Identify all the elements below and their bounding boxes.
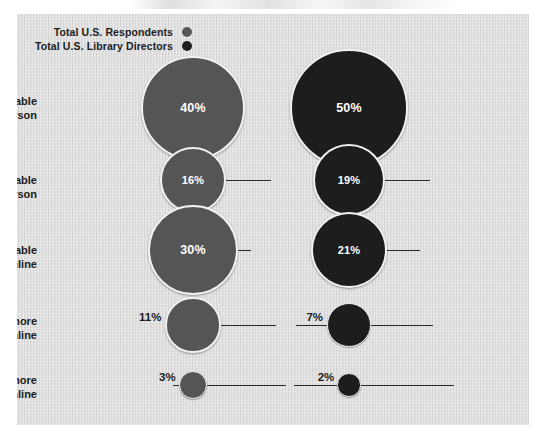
chart-screenshot: Total U.S. Respondents Total U.S. Librar…	[0, 0, 548, 438]
row-label-much-more-in-person: Much more comfortable in person	[17, 94, 37, 122]
bubble-respondents-much-more-in-person[interactable]: 40%	[141, 56, 246, 161]
bubble-plot-area: Total U.S. Respondents Total U.S. Librar…	[17, 14, 529, 425]
bubble-value-respondents-somewhat-more-online: 11%	[139, 311, 161, 323]
bubble-value: 21%	[338, 244, 361, 256]
legend-item-respondents: Total U.S. Respondents	[17, 26, 192, 38]
bubble-value-respondents-much-more-online: 3%	[159, 371, 176, 383]
legend-item-directors: Total U.S. Library Directors	[17, 40, 192, 52]
bubble-value: 16%	[182, 174, 205, 186]
legend-label-directors: Total U.S. Library Directors	[35, 40, 173, 52]
legend-swatch-directors-icon	[182, 41, 192, 51]
bubble-respondents-somewhat-more-online[interactable]	[165, 297, 220, 352]
bubble-directors-somewhat-more-in-person[interactable]: 19%	[313, 144, 385, 216]
bubble-respondents-just-as-comfortable[interactable]: 30%	[148, 205, 239, 296]
bubble-value: 30%	[180, 243, 206, 257]
row-label-somewhat-more-in-person: Somewhat more comfortable in person	[17, 173, 37, 201]
chart-panel: Total U.S. Respondents Total U.S. Librar…	[17, 14, 529, 425]
bubble-directors-somewhat-more-online[interactable]	[327, 303, 371, 347]
legend-label-respondents: Total U.S. Respondents	[54, 26, 173, 38]
bubble-directors-just-as-comfortable[interactable]: 21%	[311, 212, 387, 288]
row-label-just-as-comfortable: Just as comfortable in person as online	[17, 243, 37, 271]
connector-row-5-middle	[294, 385, 454, 386]
bubble-value-directors-much-more-online: 2%	[318, 371, 335, 383]
top-edge-artifact	[130, 0, 460, 9]
bubble-respondents-somewhat-more-in-person[interactable]: 16%	[160, 147, 226, 213]
row-label-somewhat-more-online: Somewhat more comfortable online	[17, 314, 37, 342]
row-label-much-more-online: Much more comfortable online	[17, 373, 37, 401]
bubble-respondents-much-more-online[interactable]	[179, 371, 208, 400]
bubble-value-directors-somewhat-more-online: 7%	[306, 311, 323, 323]
bubble-value: 19%	[338, 174, 361, 186]
legend-swatch-respondents-icon	[182, 27, 192, 37]
bubble-value: 40%	[180, 101, 206, 115]
bubble-directors-much-more-online[interactable]	[337, 373, 360, 396]
bubble-value: 50%	[336, 101, 362, 115]
